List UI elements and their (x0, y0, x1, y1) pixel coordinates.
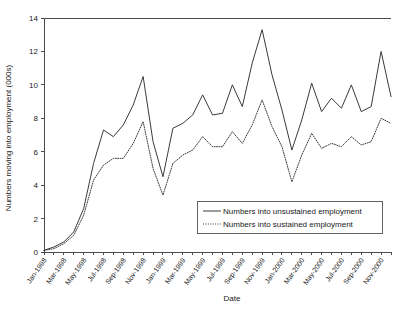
y-tick-label: 12 (29, 47, 38, 56)
y-tick-label: 4 (34, 181, 39, 190)
legend-label-sustained: Numbers into sustained employment (223, 220, 354, 229)
x-tick-label: Jul-1999 (205, 256, 226, 282)
x-tick-label: Jul-1998 (86, 256, 107, 282)
chart-figure: 02468101214 Jan-1998Mar-1998May-1998Jul-… (0, 0, 405, 311)
x-tick-label: May-1999 (183, 256, 207, 286)
x-tick-label: Jul-2000 (324, 256, 345, 282)
y-tick-label: 10 (29, 81, 38, 90)
y-axis-title: Numbers moving into employment (000s) (4, 65, 13, 212)
y-tick-label: 0 (34, 248, 39, 257)
chart-legend: Numbers into unsustained employment Numb… (197, 201, 382, 233)
y-tick-label: 8 (34, 114, 39, 123)
x-tick-label: May-1998 (64, 256, 88, 286)
y-tick-label: 6 (34, 148, 39, 157)
y-tick-label: 14 (29, 14, 38, 23)
y-axis-ticks: 02468101214 (29, 14, 44, 257)
x-axis-title: Date (224, 294, 241, 303)
x-tick-label: May-2000 (302, 256, 326, 286)
x-axis-ticks: Jan-1998Mar-1998May-1998Jul-1998Sep-1998… (25, 252, 391, 287)
legend-label-unsustained: Numbers into unsustained employment (223, 207, 363, 216)
employment-line-chart: 02468101214 Jan-1998Mar-1998May-1998Jul-… (0, 0, 405, 311)
x-tick-label: Nov-2000 (362, 256, 385, 285)
y-tick-label: 2 (34, 215, 39, 224)
